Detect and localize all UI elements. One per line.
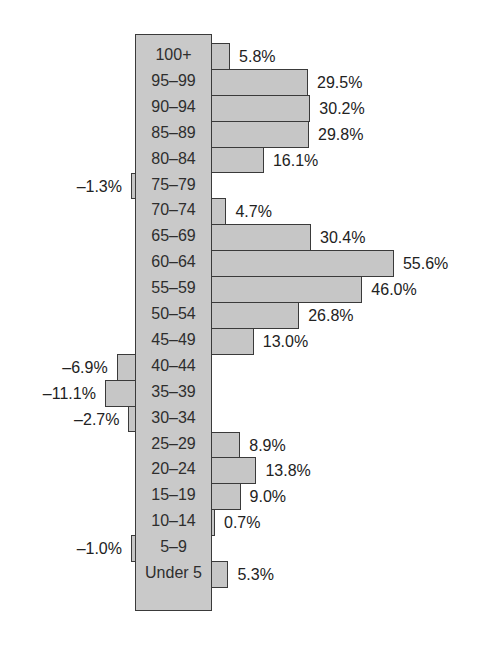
value-label: 5.8%: [239, 44, 275, 70]
age-group-label: 20–24: [135, 456, 212, 482]
age-group-label: 70–74: [135, 197, 212, 223]
bar: [211, 224, 311, 251]
age-group-label: 35–39: [135, 379, 212, 405]
age-group-label: 100+: [135, 42, 212, 68]
bar: [211, 95, 310, 122]
bar: [211, 302, 299, 329]
age-group-label: 15–19: [135, 482, 212, 508]
age-group-label: Under 5: [135, 560, 212, 586]
value-label: 13.0%: [263, 329, 308, 355]
value-label: –1.3%: [77, 174, 122, 200]
bar: [211, 250, 394, 277]
bar: [211, 198, 226, 225]
value-label: 16.1%: [273, 148, 318, 174]
age-group-label: 90–94: [135, 94, 212, 120]
age-group-label: 50–54: [135, 301, 212, 327]
bar: [211, 147, 264, 174]
age-group-label: 80–84: [135, 146, 212, 172]
value-label: –1.0%: [77, 536, 122, 562]
value-label: 9.0%: [250, 484, 286, 510]
age-group-label: 55–59: [135, 275, 212, 301]
value-label: 5.3%: [237, 562, 273, 588]
bar: [211, 121, 309, 148]
bar: [211, 432, 240, 459]
value-label: 46.0%: [371, 277, 416, 303]
value-label: –6.9%: [62, 355, 107, 381]
value-label: 26.8%: [308, 303, 353, 329]
age-group-label: 75–79: [135, 172, 212, 198]
value-label: 55.6%: [403, 251, 448, 277]
age-group-label: 10–14: [135, 508, 212, 534]
bar: [105, 380, 136, 407]
value-label: –11.1%: [43, 381, 96, 407]
age-group-label: 30–34: [135, 405, 212, 431]
age-group-label: 85–89: [135, 120, 212, 146]
value-label: 30.2%: [319, 96, 364, 122]
bar: [211, 43, 230, 70]
value-label: 4.7%: [235, 199, 271, 225]
age-group-label: 60–64: [135, 249, 212, 275]
age-group-label: 95–99: [135, 68, 212, 94]
age-group-label: 65–69: [135, 223, 212, 249]
value-label: 29.5%: [317, 70, 362, 96]
bar: [117, 354, 136, 381]
age-group-label: 45–49: [135, 327, 212, 353]
bar: [211, 483, 241, 510]
age-group-label: 5–9: [135, 534, 212, 560]
value-label: 8.9%: [249, 433, 285, 459]
age-group-label: 25–29: [135, 431, 212, 457]
percent-change-by-age-chart: 100+5.8%95–9929.5%90–9430.2%85–8929.8%80…: [0, 0, 492, 660]
value-label: –2.7%: [74, 407, 119, 433]
age-group-label: 40–44: [135, 353, 212, 379]
bar: [211, 69, 308, 96]
bar: [211, 457, 256, 484]
value-label: 13.8%: [265, 458, 310, 484]
value-label: 0.7%: [224, 510, 260, 536]
bar: [211, 276, 362, 303]
bar: [211, 328, 254, 355]
value-label: 29.8%: [318, 122, 363, 148]
bar: [211, 561, 228, 588]
value-label: 30.4%: [320, 225, 365, 251]
